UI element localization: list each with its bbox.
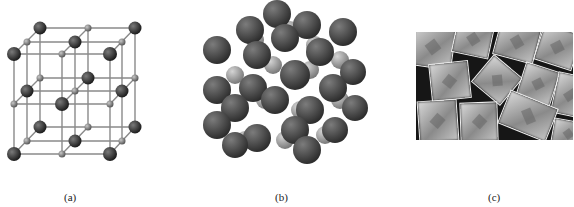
space-filling-crystal-diagram [195,0,375,180]
panel-c-label: (c) [488,191,500,203]
salt-crystals-photo [416,32,573,140]
ball-and-stick-lattice-diagram [0,0,150,170]
panel-a-label: (a) [64,191,76,203]
panel-a-ball-stick-model [0,0,150,170]
panel-b-label: (b) [275,191,288,203]
panel-b-space-filling-model [195,0,375,180]
